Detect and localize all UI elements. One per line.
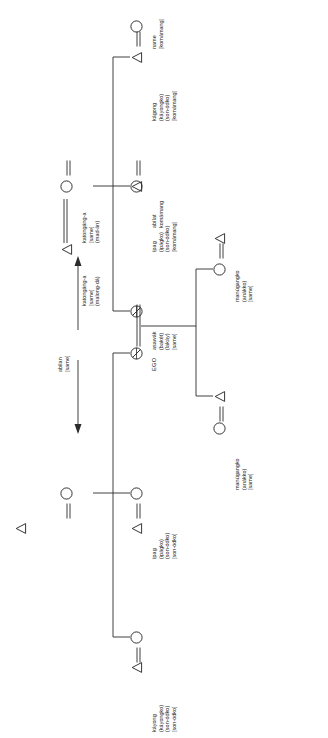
label-line: (malong-dá): [94, 275, 101, 306]
label-ipag-top: ípag (ipágko) (son-ódko) [komámang]: [151, 222, 177, 252]
label-line: kágong: [151, 91, 158, 121]
label-line: [same]: [88, 275, 95, 306]
label-line: (son-ódko): [164, 91, 171, 121]
label-ego: EGO: [151, 358, 158, 371]
label-katongang-descent: katongáng-a [same] (malong-dá): [81, 275, 101, 306]
label-line: (káyongko): [158, 705, 165, 732]
label-asawak: asawák (bakét) (lakáy) [same]: [151, 331, 177, 350]
label-line: abilan: [57, 356, 64, 372]
label-line: EGO: [151, 358, 158, 371]
label-line: [komámang]: [171, 222, 178, 252]
label-line: (ipágko): [158, 222, 165, 252]
label-abilan-axis: abilan [same]: [57, 356, 70, 372]
label-line: name: [151, 19, 158, 49]
label-line: (son-ódko): [164, 222, 171, 252]
label-line: ípag: [151, 533, 158, 559]
label-line: [son-ódko]: [171, 705, 178, 732]
label-line: [komámang]: [171, 91, 178, 121]
label-line: [same]: [171, 331, 178, 350]
label-line: (káyongko): [158, 91, 165, 121]
label-manugang-upper: manúgangko (anákko) [same]: [234, 270, 254, 302]
label-katongang-spouse: katongáng-a [same] (mad-án): [81, 212, 101, 243]
label-line: káyong: [151, 705, 158, 732]
label-line: (bakét): [158, 331, 165, 350]
label-line: manúgangko: [234, 270, 241, 302]
label-line: [son-ódko]: [171, 533, 178, 559]
label-line: (son-ódko): [164, 705, 171, 732]
label-line: ípag: [151, 222, 158, 252]
label-line: (anákko): [241, 270, 248, 302]
label-line: manúgangko: [234, 458, 241, 490]
label-kayong-bottom: káyong (káyongko) (son-ódko) [son-ódko]: [151, 705, 177, 732]
label-line: (mad-án): [94, 212, 101, 243]
label-kagong-top: kágong (káyongko) (son-ódko) [komámang]: [151, 91, 177, 121]
kinship-diagram: name [komámang] kágong (káyongko) (son-ó…: [0, 0, 328, 738]
label-line: katongáng-a: [81, 275, 88, 306]
label-line: (lakáy): [164, 331, 171, 350]
label-line: [same]: [88, 212, 95, 243]
label-line: (son-ódko): [164, 533, 171, 559]
label-line: (anákko): [241, 458, 248, 490]
label-line: katongáng-a: [81, 212, 88, 243]
label-line: [same]: [247, 270, 254, 302]
label-line: (ipágko): [158, 533, 165, 559]
label-name-female: name [komámang]: [151, 19, 164, 49]
label-line: [komámang]: [158, 19, 165, 49]
label-ipag-low: ípag (ipágko) (son-ódko) [son-ódko]: [151, 533, 177, 559]
label-line: [same]: [247, 458, 254, 490]
label-line: [same]: [64, 356, 71, 372]
label-line: asawák: [151, 331, 158, 350]
label-manugang-lower: manúgangko (anákko) [same]: [234, 458, 254, 490]
